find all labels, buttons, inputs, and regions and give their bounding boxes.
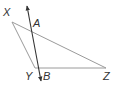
- triangle-diagram: X A Y B Z: [0, 0, 119, 88]
- label-x: X: [2, 6, 11, 18]
- label-b: B: [43, 70, 50, 82]
- label-y: Y: [25, 70, 33, 82]
- triangle-xyz: [12, 22, 106, 68]
- side-xz: [12, 22, 106, 68]
- label-a: A: [32, 17, 40, 29]
- label-z: Z: [102, 70, 111, 82]
